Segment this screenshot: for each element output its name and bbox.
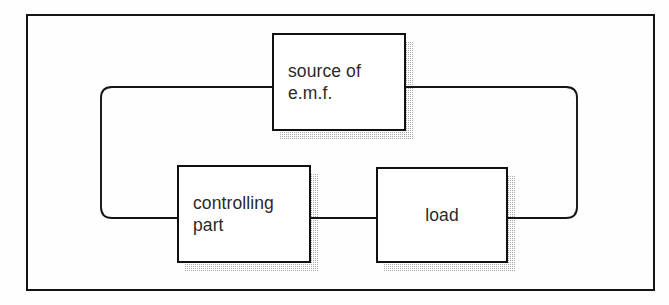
- block-controlling-part: controlling part: [177, 165, 311, 263]
- block-label-controlling-part: controlling part: [179, 192, 274, 237]
- block-label-source-of-emf: source of e.m.f.: [274, 60, 361, 105]
- block-label-load: load: [378, 204, 506, 226]
- block-load: load: [376, 167, 508, 263]
- block-source-of-emf: source of e.m.f.: [272, 33, 406, 131]
- diagram-canvas: source of e.m.f. controlling part load: [0, 0, 669, 305]
